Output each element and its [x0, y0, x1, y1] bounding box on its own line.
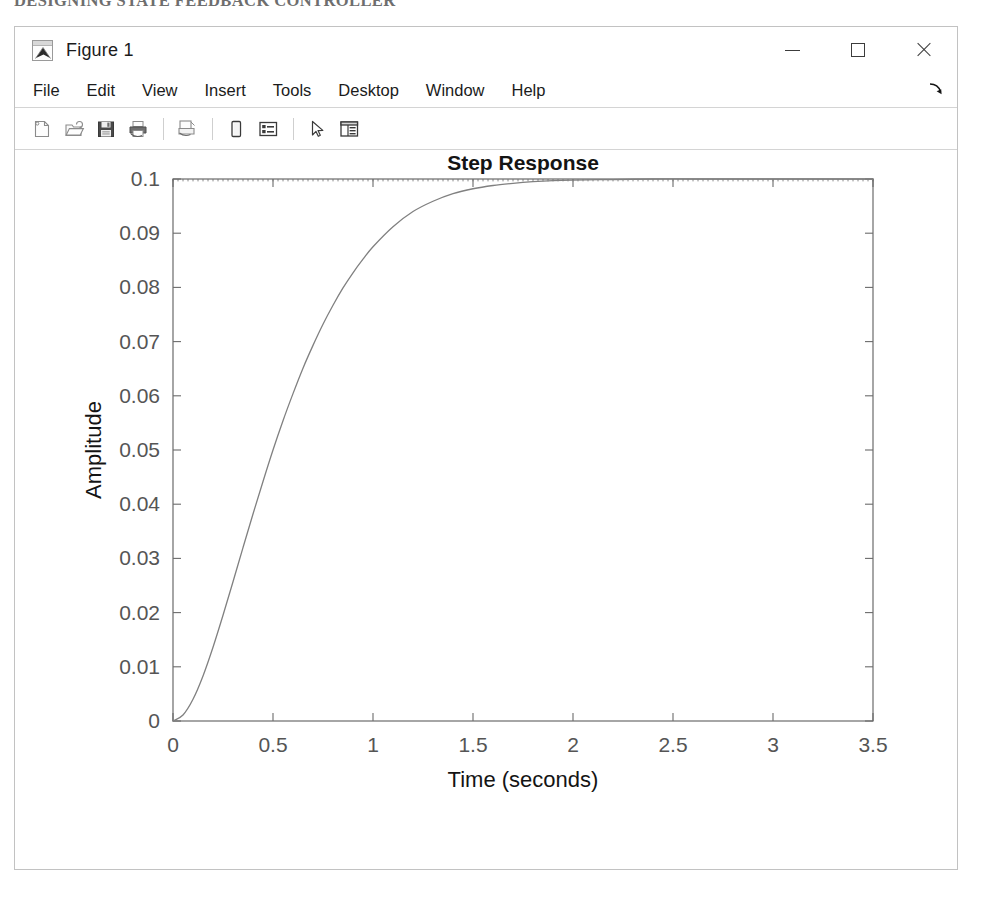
- y-tick-label: 0.1: [131, 167, 160, 190]
- page-running-header: DESIGNING STATE FEEDBACK CONTROLLER: [14, 0, 714, 7]
- y-tick-label: 0.09: [119, 221, 160, 244]
- edit-plot-arrow-icon[interactable]: [302, 114, 332, 144]
- x-tick-label: 0: [167, 733, 179, 756]
- y-tick-label: 0.02: [119, 601, 160, 624]
- y-tick-label: 0.06: [119, 384, 160, 407]
- y-tick-label: 0.08: [119, 275, 160, 298]
- x-tick-label: 3: [767, 733, 779, 756]
- x-tick-label: 2: [567, 733, 579, 756]
- x-tick-label: 1.5: [458, 733, 487, 756]
- save-figure-icon[interactable]: [91, 114, 121, 144]
- menu-item-help[interactable]: Help: [512, 81, 546, 100]
- menu-item-file[interactable]: File: [33, 81, 60, 100]
- maximize-button[interactable]: [825, 27, 891, 73]
- insert-colorbar-icon[interactable]: [221, 114, 251, 144]
- matlab-membrane-icon: [32, 40, 53, 61]
- x-tick-label: 0.5: [258, 733, 287, 756]
- y-tick-label: 0.01: [119, 655, 160, 678]
- x-axis-label: Time (seconds): [448, 767, 599, 792]
- y-tick-label: 0: [148, 709, 160, 732]
- insert-legend-icon[interactable]: [253, 114, 283, 144]
- window-controls: [759, 27, 957, 73]
- property-inspector-icon[interactable]: [334, 114, 364, 144]
- figure-canvas: Step Response00.511.522.533.500.010.020.…: [15, 150, 957, 868]
- chart-title: Step Response: [447, 151, 599, 174]
- minimize-icon: [785, 50, 800, 51]
- step-response-plot[interactable]: Step Response00.511.522.533.500.010.020.…: [15, 150, 957, 868]
- x-tick-label: 1: [367, 733, 379, 756]
- x-tick-label: 2.5: [658, 733, 687, 756]
- toolbar-separator-2: [212, 118, 213, 140]
- x-tick-label: 3.5: [858, 733, 887, 756]
- menu-item-desktop[interactable]: Desktop: [338, 81, 399, 100]
- y-tick-label: 0.04: [119, 492, 160, 515]
- window-titlebar: Figure 1: [15, 27, 957, 73]
- maximize-icon: [851, 43, 865, 57]
- page-root: DESIGNING STATE FEEDBACK CONTROLLER Figu…: [0, 0, 982, 899]
- y-axis-label: Amplitude: [81, 401, 106, 499]
- minimize-button[interactable]: [759, 27, 825, 73]
- axes-box: [173, 179, 873, 721]
- figure-toolbar: [15, 108, 957, 150]
- arrow-down-right-icon[interactable]: [927, 80, 945, 98]
- step-response-curve: [173, 179, 873, 721]
- y-tick-label: 0.07: [119, 330, 160, 353]
- menu-item-window[interactable]: Window: [426, 81, 485, 100]
- menu-item-insert[interactable]: Insert: [205, 81, 246, 100]
- y-tick-label: 0.05: [119, 438, 160, 461]
- new-figure-icon[interactable]: [27, 114, 57, 144]
- menu-item-tools[interactable]: Tools: [273, 81, 312, 100]
- menubar: File Edit View Insert Tools Desktop Wind…: [15, 73, 957, 108]
- toolbar-separator-1: [163, 118, 164, 140]
- toolbar-separator-3: [293, 118, 294, 140]
- y-tick-label: 0.03: [119, 546, 160, 569]
- open-file-icon[interactable]: [59, 114, 89, 144]
- print-preview-icon[interactable]: [172, 114, 202, 144]
- menu-item-view[interactable]: View: [142, 81, 177, 100]
- menu-item-edit[interactable]: Edit: [87, 81, 115, 100]
- close-button[interactable]: [891, 27, 957, 73]
- figure-window: Figure 1 File Edit View Insert Tools Des…: [14, 26, 958, 870]
- print-figure-icon[interactable]: [123, 114, 153, 144]
- window-title: Figure 1: [66, 40, 134, 61]
- close-icon: [915, 41, 933, 59]
